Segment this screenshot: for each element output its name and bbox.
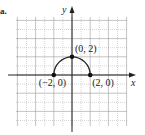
point-label: (2, 0) — [92, 77, 114, 89]
x-axis-label: x — [130, 77, 136, 88]
point-label: (0, 2) — [75, 43, 97, 55]
graph: (−2, 0)(0, 2)(2, 0) x y — [0, 0, 145, 135]
point-marker — [70, 55, 75, 60]
y-axis-label: y — [61, 4, 67, 15]
axes — [8, 6, 136, 132]
point-label: (−2, 0) — [39, 77, 66, 89]
